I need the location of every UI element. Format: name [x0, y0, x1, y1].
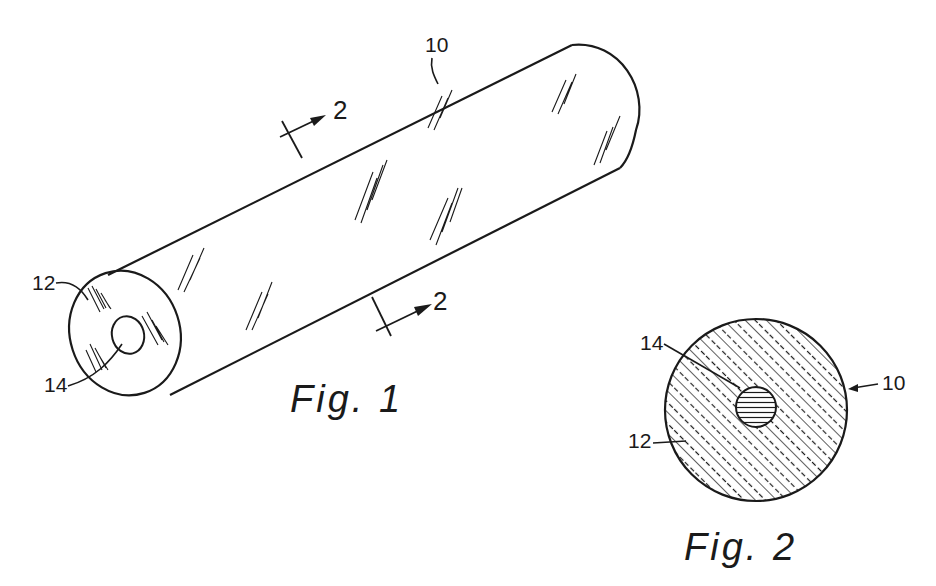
- label-10: 10: [425, 33, 448, 56]
- figure-2: 14 12 10 Fig. 2: [628, 319, 905, 568]
- figure-1: 10 12 14 2 2 Fig. 1: [32, 33, 639, 420]
- label-10: 10: [882, 371, 905, 394]
- label-12: 12: [32, 271, 55, 294]
- core-14-hatch: [736, 387, 776, 427]
- figure-caption: Fig. 2: [684, 526, 797, 568]
- section-marker-2-bottom: 2: [372, 286, 447, 336]
- surface-shading-marks: [86, 74, 620, 372]
- section-marker-2-top: 2: [280, 95, 347, 158]
- figure-caption: Fig. 1: [290, 378, 403, 420]
- reference-10-fig2: 10: [848, 371, 905, 394]
- section-label: 2: [433, 286, 447, 316]
- reference-12-fig1: 12: [32, 271, 88, 300]
- cylinder-body-10: [108, 45, 639, 395]
- section-label: 2: [333, 95, 347, 125]
- bore-14: [108, 313, 149, 358]
- label-14: 14: [640, 331, 664, 354]
- patent-drawing: 10 12 14 2 2 Fig. 1: [0, 0, 936, 586]
- reference-10-fig1: 10: [425, 33, 448, 84]
- label-12: 12: [628, 429, 651, 452]
- end-face-12: [53, 256, 197, 410]
- label-14: 14: [44, 373, 68, 396]
